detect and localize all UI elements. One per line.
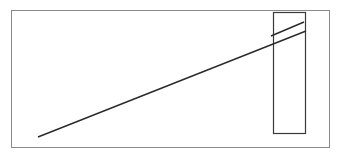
diagram-canvas <box>0 0 337 153</box>
